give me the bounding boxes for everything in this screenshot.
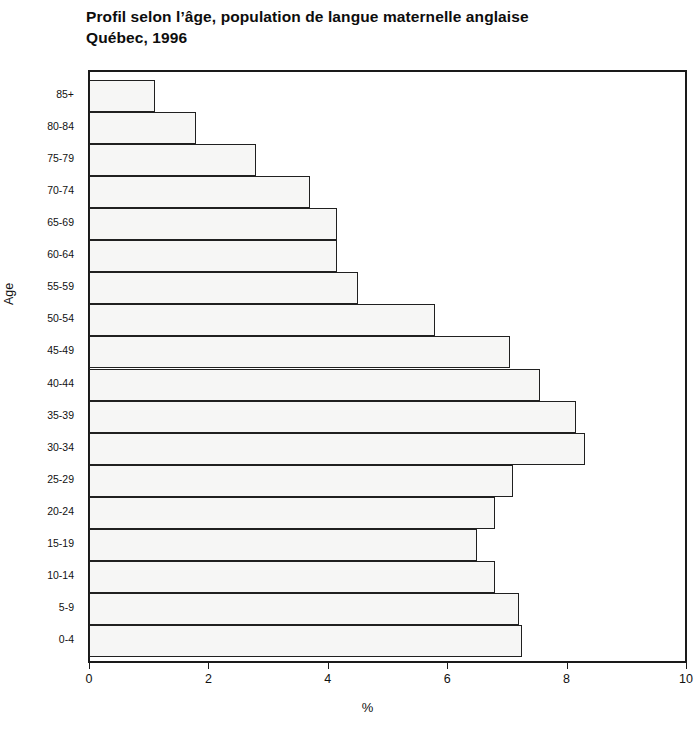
x-tick-mark-6 [447,663,448,669]
bar-60-64 [89,240,337,272]
y-tick-30-34: 30-34 [47,441,74,453]
bar-40-44 [89,369,540,401]
x-tick-mark-0 [89,663,90,669]
bar-35-39 [89,401,576,433]
x-tick-label-10: 10 [679,672,693,686]
y-tick-80-84: 80-84 [47,120,74,132]
chart-title: Profil selon l’âge, population de langue… [86,6,686,48]
x-tick-label-0: 0 [86,672,93,686]
chart-title-line-1: Profil selon l’âge, population de langue… [86,6,686,27]
x-tick-label-6: 6 [444,672,451,686]
bars-layer [90,72,685,661]
bar-30-34 [89,433,585,465]
bar-5-9 [89,593,519,625]
bar-15-19 [89,529,477,561]
bar-20-24 [89,497,495,529]
bar-55-59 [89,272,358,304]
y-tick-45-49: 45-49 [47,344,74,356]
bar-25-29 [89,465,513,497]
bar-0-4 [89,625,522,657]
x-tick-mark-2 [208,663,209,669]
plot-area [88,70,687,663]
x-tick-mark-8 [567,663,568,669]
y-tick-20-24: 20-24 [47,505,74,517]
y-tick-15-19: 15-19 [47,537,74,549]
bar-75-79 [89,144,256,176]
x-tick-label-4: 4 [324,672,331,686]
y-tick-0-4: 0-4 [59,633,74,645]
x-tick-label-8: 8 [563,672,570,686]
y-tick-10-14: 10-14 [47,569,74,581]
x-tick-mark-4 [328,663,329,669]
bar-85+ [89,80,155,112]
y-tick-65-69: 65-69 [47,216,74,228]
y-tick-75-79: 75-79 [47,152,74,164]
bar-50-54 [89,304,435,336]
y-tick-55-59: 55-59 [47,280,74,292]
x-axis-title: % [362,700,374,715]
x-tick-mark-10 [686,663,687,669]
y-tick-40-44: 40-44 [47,377,74,389]
bar-70-74 [89,176,310,208]
y-tick-60-64: 60-64 [47,248,74,260]
bar-65-69 [89,208,337,240]
y-tick-5-9: 5-9 [59,601,74,613]
bar-80-84 [89,112,196,144]
bar-10-14 [89,561,495,593]
y-tick-35-39: 35-39 [47,409,74,421]
x-tick-label-2: 2 [205,672,212,686]
bar-45-49 [89,336,510,368]
y-tick-25-29: 25-29 [47,473,74,485]
y-tick-85+: 85+ [56,88,74,100]
y-axis-tick-labels: 85+80-8475-7970-7465-6960-6455-5950-5445… [0,70,82,663]
y-tick-50-54: 50-54 [47,312,74,324]
y-tick-70-74: 70-74 [47,184,74,196]
x-axis-tick-labels: 0246810 [0,672,694,694]
chart-title-line-2: Québec, 1996 [86,27,686,48]
